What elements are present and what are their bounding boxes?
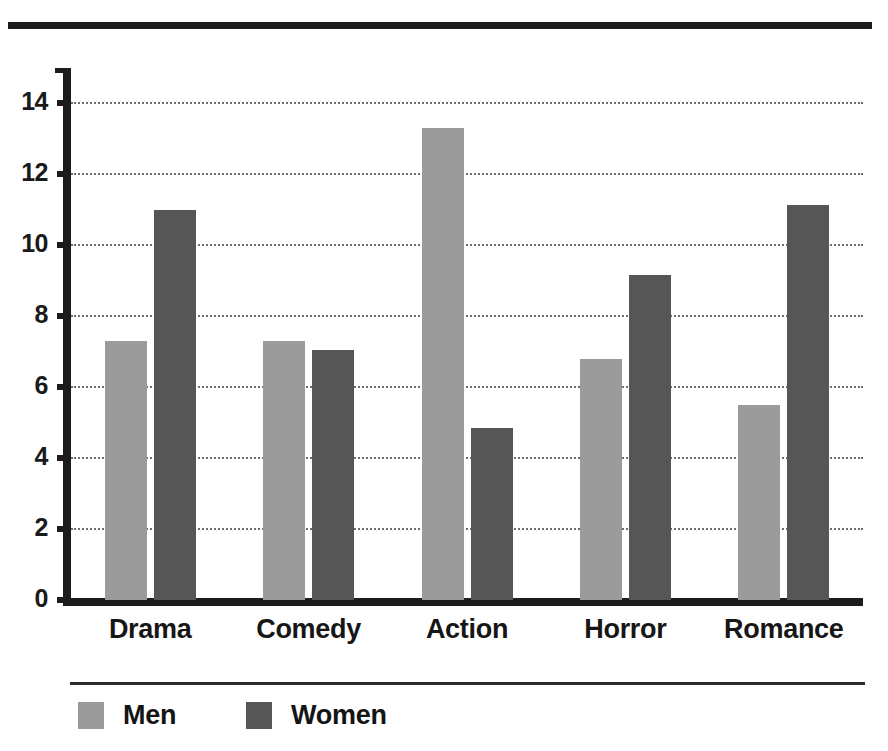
x-axis-label-romance: Romance [705,614,863,645]
y-axis-tick-label: 6 [4,371,48,400]
y-axis-tick [57,100,71,106]
top-divider-rule [8,22,872,29]
bar-horror-women [629,275,671,600]
y-axis-tick [57,313,71,319]
y-axis-tick-label: 8 [4,300,48,329]
y-axis-tick-label: 14 [4,87,48,116]
y-axis-tick [57,171,71,177]
bar-comedy-women [312,350,354,600]
bar-romance-men [738,405,780,600]
legend-item-men[interactable]: Men [78,700,176,731]
x-axis-label-action: Action [388,614,546,645]
y-axis-tick [57,384,71,390]
bar-action-men [422,128,464,600]
y-axis-tick-label: 2 [4,513,48,542]
chart-legend: Men Women [78,700,387,731]
bar-drama-men [105,341,147,600]
legend-swatch-men-icon [78,702,104,729]
y-axis-tick [57,242,71,248]
bars-layer [71,68,863,600]
bar-action-women [471,428,513,600]
y-axis-tick [57,455,71,461]
x-axis-label-comedy: Comedy [229,614,387,645]
bar-horror-men [580,359,622,600]
y-axis-tick-label: 10 [4,229,48,258]
y-axis-tick [57,526,71,532]
y-axis-tick [57,597,71,603]
bar-romance-women [787,205,829,600]
bar-drama-women [154,210,196,600]
legend-divider-rule [70,682,865,685]
legend-label-women: Women [291,700,387,731]
y-axis-tick-label: 4 [4,442,48,471]
x-axis-label-drama: Drama [71,614,229,645]
legend-item-women[interactable]: Women [246,700,387,731]
y-axis-tick-label: 0 [4,584,48,613]
legend-label-men: Men [123,700,176,731]
bar-chart-figure: 02468101214 DramaComedyActionHorrorRoman… [0,0,888,751]
y-axis-tick-label: 12 [4,158,48,187]
x-axis-label-horror: Horror [546,614,704,645]
legend-swatch-women-icon [246,702,272,729]
bar-comedy-men [263,341,305,600]
